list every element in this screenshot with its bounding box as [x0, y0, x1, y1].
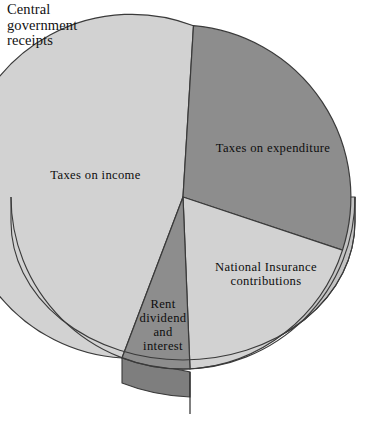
slice-label-national-insurance: National Insurance contributions: [196, 260, 336, 288]
pie-chart: Central government receipts Taxes on inc…: [0, 0, 365, 421]
slice-label-taxes-on-expenditure: Taxes on expenditure: [198, 141, 348, 155]
slice-label-taxes-on-income: Taxes on income: [18, 168, 173, 182]
slice-label-rent-dividend-interest: Rent dividend and interest: [129, 297, 197, 353]
pie-chart-graphic: [0, 0, 365, 421]
chart-title: Central government receipts: [7, 2, 127, 49]
